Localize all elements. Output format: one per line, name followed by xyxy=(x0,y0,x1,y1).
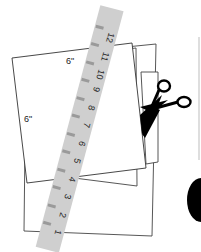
black-semicircle-shape xyxy=(187,178,201,222)
paper-ruler-scissors-illustration: 6" 6" 12 11 10 9 xyxy=(0,0,201,252)
paper-width-label: 6" xyxy=(66,56,74,66)
paper-height-label: 6" xyxy=(24,114,32,124)
